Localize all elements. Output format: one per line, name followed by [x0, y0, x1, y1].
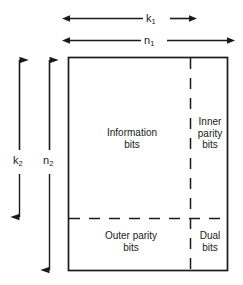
dimension-label-n1: n1 [144, 34, 154, 46]
dimension-label-k1: k1 [146, 12, 156, 24]
region-label-dual-bits: Dual bits [192, 230, 228, 253]
dimension-symbol-k1: k [146, 12, 152, 24]
dimension-subscript-k1: 1 [152, 17, 156, 26]
dimension-subscript-n2: 2 [49, 159, 53, 168]
dimension-label-n2: n2 [43, 154, 53, 166]
region-label-inner-parity-bits: Inner parity bits [192, 116, 228, 151]
code-block-structure-diagram: Information bits Inner parity bits Outer… [0, 0, 243, 285]
dimension-subscript-n1: 1 [150, 39, 154, 48]
dimension-subscript-k2: 2 [19, 159, 23, 168]
dimension-symbol-k2: k [13, 154, 19, 166]
dimension-label-k2: k2 [13, 154, 23, 166]
region-label-outer-parity-bits: Outer parity bits [74, 230, 188, 253]
region-label-information-bits: Information bits [78, 127, 186, 150]
